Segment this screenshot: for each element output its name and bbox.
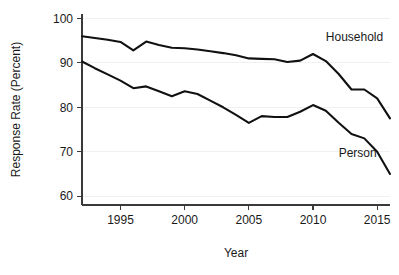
chart-figure: 6070809010019952000200520102015YearRespo… bbox=[0, 0, 399, 275]
y-tick-label-90: 90 bbox=[60, 56, 74, 70]
series-line-household bbox=[82, 36, 390, 118]
line-chart: 6070809010019952000200520102015YearRespo… bbox=[0, 0, 399, 275]
y-axis-title: Response Rate (Percent) bbox=[9, 42, 23, 177]
series-annotation-household: Household bbox=[326, 30, 383, 44]
series-annotation-person: Person bbox=[339, 146, 377, 160]
y-tick-label-70: 70 bbox=[60, 145, 74, 159]
x-tick-label-2005: 2005 bbox=[235, 213, 262, 227]
x-axis-title: Year bbox=[224, 246, 248, 260]
x-tick-label-2015: 2015 bbox=[364, 213, 391, 227]
y-tick-label-100: 100 bbox=[53, 12, 73, 26]
y-tick-label-80: 80 bbox=[60, 101, 74, 115]
x-tick-label-2000: 2000 bbox=[171, 213, 198, 227]
y-tick-label-60: 60 bbox=[60, 189, 74, 203]
x-tick-label-2010: 2010 bbox=[300, 213, 327, 227]
x-tick-label-1995: 1995 bbox=[107, 213, 134, 227]
